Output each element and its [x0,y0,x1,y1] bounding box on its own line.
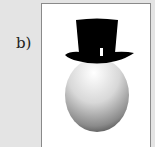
top-hat-icon [65,19,134,64]
egg-icon [65,58,129,132]
egg-illustration [0,0,155,147]
